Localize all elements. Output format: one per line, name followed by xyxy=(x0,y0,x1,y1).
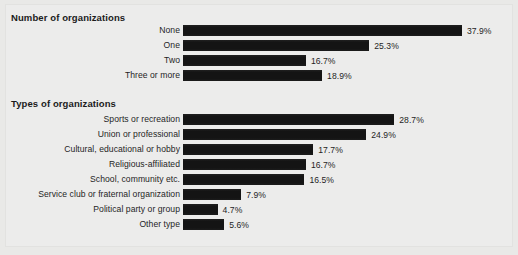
bar-row: Union or professional 24.9% xyxy=(0,128,518,143)
bar-track: 24.9% xyxy=(183,129,513,140)
bar-track: 37.9% xyxy=(183,25,513,36)
bar-category-label: Religious-affiliated xyxy=(109,159,180,169)
bar-fill xyxy=(183,204,218,215)
bar-fill xyxy=(183,219,224,230)
bar-fill xyxy=(183,40,369,51)
bar-row: None 37.9% xyxy=(0,24,518,39)
bar-track: 16.5% xyxy=(183,174,513,185)
bar-track: 28.7% xyxy=(183,114,513,125)
bar-row: Cultural, educational or hobby 17.7% xyxy=(0,143,518,158)
bar-category-label: Sports or recreation xyxy=(104,114,180,124)
bar-fill xyxy=(183,70,322,81)
bar-fill xyxy=(183,159,306,170)
bar-fill xyxy=(183,189,241,200)
bar-value-label: 16.7% xyxy=(311,160,336,170)
bar-track: 7.9% xyxy=(183,189,513,200)
bar-value-label: 37.9% xyxy=(467,26,492,36)
bar-track: 4.7% xyxy=(183,204,513,215)
bar-track: 18.9% xyxy=(183,70,513,81)
bar-category-label: None xyxy=(159,25,180,35)
bar-category-label: Other type xyxy=(139,219,180,229)
bar-row: Other type 5.6% xyxy=(0,218,518,233)
section-title-number-of-organizations: Number of organizations xyxy=(11,12,125,23)
bar-category-label: Cultural, educational or hobby xyxy=(64,144,180,154)
bar-value-label: 16.7% xyxy=(311,56,336,66)
bar-value-label: 18.9% xyxy=(327,71,352,81)
chart-figure: Number of organizations None 37.9% One 2… xyxy=(0,0,518,255)
bar-value-label: 24.9% xyxy=(371,130,396,140)
bar-fill xyxy=(183,144,313,155)
bar-category-label: School, community etc. xyxy=(90,174,180,184)
bar-category-label: Service club or fraternal organization xyxy=(38,189,180,199)
bar-track: 25.3% xyxy=(183,40,513,51)
bar-value-label: 28.7% xyxy=(399,115,424,125)
bar-value-label: 16.5% xyxy=(309,175,334,185)
bar-value-label: 4.7% xyxy=(223,205,243,215)
bar-category-label: Three or more xyxy=(125,70,180,80)
bar-rows-number-of-organizations: None 37.9% One 25.3% Two 16.7% xyxy=(0,24,518,84)
bar-value-label: 17.7% xyxy=(318,145,343,155)
bar-fill xyxy=(183,25,462,36)
bar-track: 16.7% xyxy=(183,159,513,170)
bar-track: 5.6% xyxy=(183,219,513,230)
bar-row: Religious-affiliated 16.7% xyxy=(0,158,518,173)
bar-row: Sports or recreation 28.7% xyxy=(0,113,518,128)
bar-fill xyxy=(183,129,366,140)
section-title-types-of-organizations: Types of organizations xyxy=(11,98,116,109)
bar-value-label: 5.6% xyxy=(229,220,249,230)
bar-category-label: Union or professional xyxy=(98,129,180,139)
bar-rows-types-of-organizations: Sports or recreation 28.7% Union or prof… xyxy=(0,113,518,233)
bar-row: School, community etc. 16.5% xyxy=(0,173,518,188)
bar-fill xyxy=(183,114,394,125)
bar-category-label: Political party or group xyxy=(93,204,180,214)
bar-row: One 25.3% xyxy=(0,39,518,54)
bar-category-label: One xyxy=(164,40,180,50)
bar-row: Two 16.7% xyxy=(0,54,518,69)
bar-fill xyxy=(183,174,304,185)
bar-category-label: Two xyxy=(164,55,180,65)
bar-row: Political party or group 4.7% xyxy=(0,203,518,218)
bar-fill xyxy=(183,55,306,66)
bar-value-label: 7.9% xyxy=(246,190,266,200)
bar-value-label: 25.3% xyxy=(374,41,399,51)
bar-track: 17.7% xyxy=(183,144,513,155)
bar-row: Three or more 18.9% xyxy=(0,69,518,84)
bar-row: Service club or fraternal organization 7… xyxy=(0,188,518,203)
bar-track: 16.7% xyxy=(183,55,513,66)
